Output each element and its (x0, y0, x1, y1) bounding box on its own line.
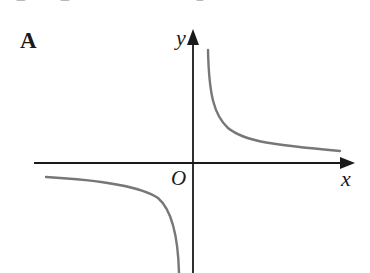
y-axis-arrow-icon (187, 29, 199, 45)
curve-lower-branch (46, 177, 179, 273)
hyperbola-figure: A y x O (0, 0, 370, 273)
y-axis-label: y (176, 27, 186, 49)
origin-label: O (171, 168, 186, 189)
x-axis-label: x (341, 168, 351, 190)
panel-label: A (20, 29, 37, 52)
curve-upper-branch (208, 50, 340, 151)
